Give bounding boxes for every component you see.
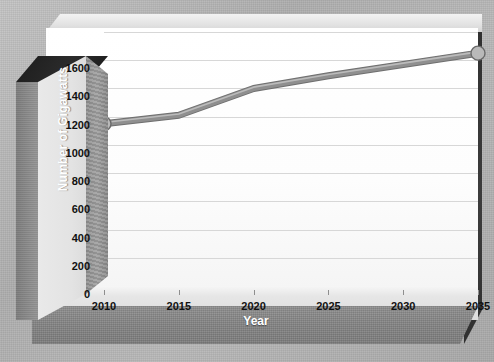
x-tick-label-2030: 2030 [391,300,415,312]
x-tick-label-2020: 2020 [241,300,265,312]
x-tick-2025 [328,290,329,295]
x-tick-2010 [104,290,105,295]
x-tick-label-2035: 2035 [466,300,490,312]
x-tick-2035 [478,290,479,295]
y-tick-label-0: 0 [84,288,90,300]
data-series-layer [104,32,478,286]
x-tick-label-2025: 2025 [316,300,340,312]
x-tick-label-2015: 2015 [167,300,191,312]
series-line[interactable] [104,53,478,124]
y-axis-title: Number of Gigawatts [56,54,70,204]
data-point-2035[interactable] [471,46,485,60]
x-axis-title: Year [166,314,346,328]
y-tick-label-600: 600 [72,203,90,215]
chart-3d-container: 02004006008001000120014001600 2010201520… [16,14,482,344]
y-tick-label-400: 400 [72,232,90,244]
chart-screenshot: 02004006008001000120014001600 2010201520… [0,0,494,362]
x-tick-label-2010: 2010 [92,300,116,312]
y-tick-label-200: 200 [72,260,90,272]
x-tick-2030 [403,290,404,295]
x-tick-2015 [179,290,180,295]
y-tick-label-800: 800 [72,175,90,187]
x-tick-2020 [254,290,255,295]
